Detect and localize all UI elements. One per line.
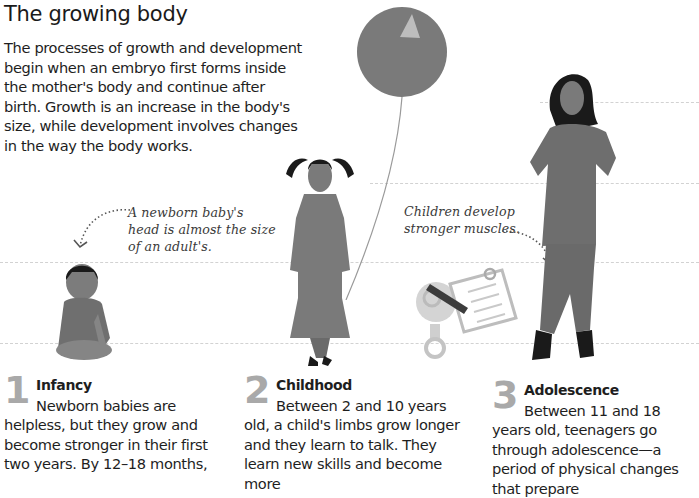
stage-childhood: 2 Childhood Between 2 and 10 years old, …: [244, 376, 472, 493]
stage-heading: Childhood: [244, 376, 472, 396]
annotation-baby-head: A newborn baby's head is almost the size…: [128, 204, 278, 255]
dotted-arrow-icon: [68, 200, 138, 255]
stage-number: 3: [492, 379, 518, 417]
stage-text: Between 2 and 10 years old, a child's li…: [244, 397, 460, 492]
teen-figure: [520, 68, 640, 370]
stage-number: 2: [244, 374, 270, 412]
intro-paragraph: The processes of growth and development …: [4, 38, 304, 156]
page-title: The growing body: [4, 2, 188, 26]
stage-number: 1: [4, 374, 30, 412]
stage-text: Newborn babies are helpless, but they gr…: [4, 397, 208, 473]
baby-figure: [50, 258, 120, 368]
stage-heading: Adolescence: [492, 381, 699, 401]
stage-heading: Infancy: [4, 376, 230, 396]
stage-text: Between 11 and 18 years old, teenagers g…: [492, 402, 679, 497]
child-figure: [280, 148, 360, 368]
robot-clipboard-icon: [410, 262, 520, 362]
stage-adolescence: 3 Adolescence Between 11 and 18 years ol…: [492, 381, 699, 498]
stage-infancy: 1 Infancy Newborn babies are helpless, b…: [4, 376, 230, 474]
